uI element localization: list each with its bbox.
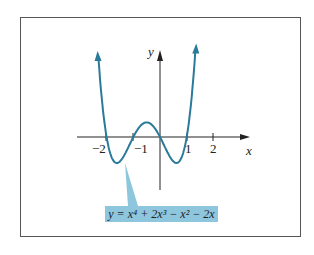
x-axis-arrow-icon (240, 134, 250, 140)
x-axis-label: x (246, 143, 252, 159)
tick-label-1: 1 (185, 141, 192, 157)
tick-label-m1: −1 (134, 141, 148, 157)
y-axis-arrow-icon (157, 50, 163, 61)
curve-arrow-left-icon (95, 51, 102, 61)
label-pointer (125, 163, 138, 206)
tick-label-m2: −2 (92, 141, 106, 157)
y-axis-label: y (148, 44, 154, 60)
tick-label-2: 2 (210, 141, 217, 157)
equation-label: y = x⁴ + 2x³ − x² − 2x (105, 206, 218, 222)
curve-arrow-right-icon (192, 43, 199, 53)
